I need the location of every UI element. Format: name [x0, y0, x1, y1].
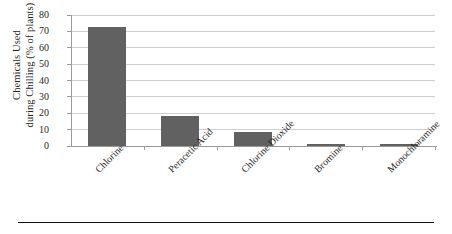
x-axis-tick — [435, 146, 436, 150]
x-axis-tick — [217, 146, 218, 150]
y-axis-title-line-1: Chemicals Used — [10, 0, 23, 140]
y-axis-tick-label: 10 — [29, 125, 49, 135]
y-axis-tick-label: 30 — [29, 92, 49, 102]
y-axis-tick-label: 80 — [29, 10, 49, 20]
y-axis-tick-label: 50 — [29, 59, 49, 69]
x-axis-tick — [289, 146, 290, 150]
y-axis-tick-label: 60 — [29, 43, 49, 53]
y-axis-tick-label: 40 — [29, 76, 49, 86]
x-axis-category-label: Chlorine — [93, 142, 126, 175]
y-axis-title: Chemicals Used during Chilling (% of pla… — [10, 0, 44, 140]
y-axis-tick-label: 20 — [29, 108, 49, 118]
x-axis-category-label: Monochloramine — [385, 118, 441, 174]
x-axis-category-label: Bromine — [312, 142, 345, 175]
y-axis-tick-label: 70 — [29, 26, 49, 36]
gridline — [71, 15, 435, 16]
y-axis-tick-label: 0 — [29, 141, 49, 151]
bottom-rule — [18, 222, 434, 223]
x-axis-tick — [144, 146, 145, 150]
y-axis-line — [71, 15, 72, 146]
bar — [88, 27, 126, 146]
x-axis-tick — [362, 146, 363, 150]
plot-area: 01020304050607080ChlorinePeracetic AcidC… — [71, 15, 435, 146]
y-axis-title-line-2: during Chilling (% of plants) — [23, 0, 36, 140]
chart-figure: Chemicals Used during Chilling (% of pla… — [0, 0, 452, 234]
